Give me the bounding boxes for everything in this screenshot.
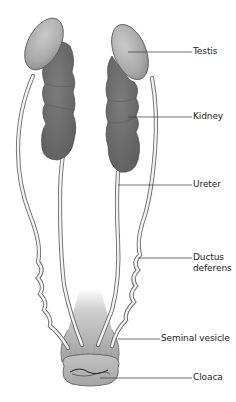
label-testis: Testis xyxy=(193,46,217,57)
label-ductus-line2: deferens xyxy=(193,263,232,274)
diagram-canvas: Testis Kidney Ureter Ductus deferens Sem… xyxy=(0,0,236,402)
seminal-vesicle-body xyxy=(61,288,119,362)
label-ductus-deferens: Ductus deferens xyxy=(193,252,232,274)
label-seminal-vesicle: Seminal vesicle xyxy=(161,333,230,344)
cloaca-body xyxy=(63,354,119,386)
label-ureter: Ureter xyxy=(193,179,221,190)
label-ductus-line1: Ductus xyxy=(193,252,232,263)
label-kidney: Kidney xyxy=(193,111,223,122)
label-cloaca: Cloaca xyxy=(193,372,223,383)
